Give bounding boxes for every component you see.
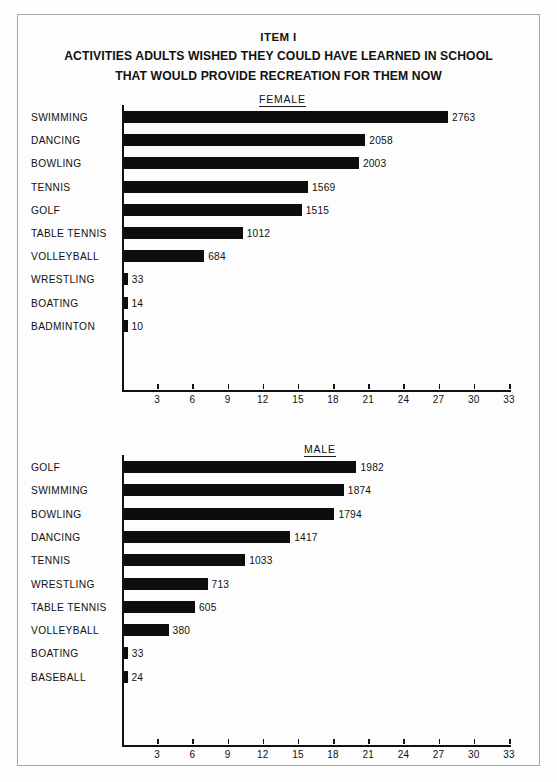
category-label: BASEBALL (31, 672, 86, 684)
bar (124, 624, 169, 636)
bar (124, 601, 195, 613)
bar-value-label: 1569 (312, 182, 335, 194)
x-axis-tick-label: 21 (363, 394, 375, 405)
y-axis-line (122, 105, 124, 390)
category-label: TABLE TENNIS (31, 602, 107, 614)
x-axis-tick-label: 33 (503, 749, 515, 760)
category-label: TABLE TENNIS (31, 228, 107, 240)
x-axis-tick-label: 21 (363, 749, 375, 760)
x-axis-tick-label: 30 (468, 749, 480, 760)
item-label: ITEM I (18, 29, 539, 46)
bar (124, 671, 128, 683)
x-axis-tick (333, 384, 335, 389)
bar (124, 554, 245, 566)
bar-value-label: 2003 (363, 158, 386, 170)
bar-value-label: 33 (132, 274, 144, 286)
x-axis-tick (474, 384, 476, 389)
category-label: VOLLEYBALL (31, 251, 99, 263)
x-axis-tick (403, 384, 405, 389)
x-axis-tick-label: 24 (398, 749, 410, 760)
bar-value-label: 33 (132, 648, 144, 660)
category-label: WRESTLING (31, 274, 95, 286)
bar-value-label: 10 (132, 321, 144, 333)
x-axis-tick (192, 739, 194, 744)
x-axis-line (122, 745, 511, 747)
x-axis-tick (298, 384, 300, 389)
category-label: GOLF (31, 462, 60, 474)
x-axis-tick (263, 739, 265, 744)
x-axis-tick (192, 384, 194, 389)
category-label: DANCING (31, 532, 80, 544)
x-axis-tick-label: 18 (327, 749, 339, 760)
x-axis-tick-label: 27 (433, 394, 445, 405)
bar-value-label: 24 (132, 672, 144, 684)
bar (124, 647, 128, 659)
x-axis-tick (509, 384, 511, 389)
bar-value-label: 2763 (452, 112, 475, 124)
bar (124, 578, 208, 590)
bar (124, 181, 308, 193)
category-label: VOLLEYBALL (31, 625, 99, 637)
x-axis-tick-label: 9 (225, 394, 231, 405)
x-axis-tick-label: 27 (433, 749, 445, 760)
category-label: SWIMMING (31, 112, 88, 124)
bar-value-label: 684 (208, 251, 226, 263)
x-axis-tick (157, 384, 159, 389)
x-axis-tick-label: 30 (468, 394, 480, 405)
x-axis-tick (157, 739, 159, 744)
x-axis-tick-label: 3 (154, 394, 160, 405)
category-label: DANCING (31, 135, 80, 147)
category-label: BOWLING (31, 158, 82, 170)
bar (124, 531, 290, 543)
x-axis-tick (333, 739, 335, 744)
bar-value-label: 1012 (247, 228, 270, 240)
title-line-2: THAT WOULD PROVIDE RECREATION FOR THEM N… (18, 66, 539, 86)
bar-value-label: 1417 (294, 532, 317, 544)
chart-title-block: ITEM I ACTIVITIES ADULTS WISHED THEY COU… (18, 29, 539, 86)
female-section-heading: FEMALE (259, 93, 306, 107)
bar-value-label: 713 (212, 579, 230, 591)
x-axis-tick (228, 739, 230, 744)
x-axis-tick-label: 3 (154, 749, 160, 760)
x-axis-tick (368, 739, 370, 744)
x-axis-tick-label: 12 (257, 394, 269, 405)
bar-value-label: 1033 (249, 555, 272, 567)
bar-value-label: 2058 (369, 135, 392, 147)
bar (124, 484, 344, 496)
x-axis-tick-label: 24 (398, 394, 410, 405)
category-label: SWIMMING (31, 485, 88, 497)
x-axis-tick (263, 384, 265, 389)
bar (124, 204, 302, 216)
bar-value-label: 380 (173, 625, 191, 637)
male-section-heading: MALE (304, 443, 336, 457)
x-axis-tick-label: 15 (292, 394, 304, 405)
bar (124, 134, 365, 146)
bar-value-label: 605 (199, 602, 217, 614)
x-axis-tick (298, 739, 300, 744)
x-axis-tick (439, 384, 441, 389)
bar-value-label: 1874 (348, 485, 371, 497)
bar-value-label: 14 (132, 298, 144, 310)
bar (124, 508, 334, 520)
x-axis-tick-label: 6 (189, 394, 195, 405)
bar-value-label: 1982 (360, 462, 383, 474)
bar (124, 461, 356, 473)
category-label: BOATING (31, 298, 79, 310)
x-axis-tick (368, 384, 370, 389)
bar (124, 111, 448, 123)
x-axis-tick (509, 739, 511, 744)
x-axis-tick-label: 15 (292, 749, 304, 760)
bar (124, 250, 204, 262)
x-axis-tick (228, 384, 230, 389)
category-label: GOLF (31, 205, 60, 217)
x-axis-tick-label: 6 (189, 749, 195, 760)
x-axis-tick (403, 739, 405, 744)
bar (124, 273, 128, 285)
bar-value-label: 1515 (306, 205, 329, 217)
category-label: BOATING (31, 648, 79, 660)
category-label: TENNIS (31, 182, 70, 194)
x-axis-tick-label: 33 (503, 394, 515, 405)
bar-value-label: 1794 (338, 509, 361, 521)
x-axis-tick-label: 18 (327, 394, 339, 405)
category-label: TENNIS (31, 555, 70, 567)
